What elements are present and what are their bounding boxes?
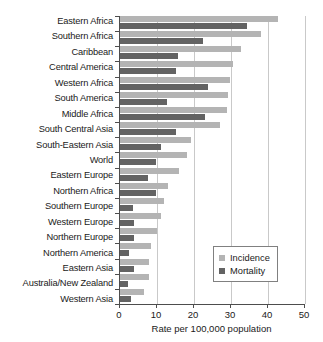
bar-mortality xyxy=(120,175,148,181)
bar-incidence xyxy=(120,122,220,128)
category-label: South Central Asia xyxy=(0,124,117,134)
bar-incidence xyxy=(120,228,157,234)
gridline xyxy=(305,16,306,304)
bar-mortality xyxy=(120,220,134,226)
bar-incidence xyxy=(120,46,241,52)
category-axis-labels: Eastern AfricaSouthern AfricaCaribbeanCe… xyxy=(0,16,117,304)
x-tick-label: 50 xyxy=(299,309,310,320)
category-label: Eastern Africa xyxy=(0,16,117,26)
category-label: South America xyxy=(0,93,117,103)
bar-incidence xyxy=(120,168,179,174)
y-tick xyxy=(115,168,119,169)
legend-swatch-incidence-icon xyxy=(219,255,225,261)
bar-mortality xyxy=(120,159,156,165)
category-label: Caribbean xyxy=(0,47,117,57)
bar-incidence xyxy=(120,107,227,113)
category-label: Western Africa xyxy=(0,78,117,88)
bar-mortality xyxy=(120,99,167,105)
category-label: Eastern Asia xyxy=(0,263,117,273)
x-tick xyxy=(267,304,268,308)
y-tick xyxy=(115,77,119,78)
y-tick xyxy=(115,137,119,138)
bar-mortality xyxy=(120,114,205,120)
category-label: Eastern Europe xyxy=(0,170,117,180)
y-tick xyxy=(115,213,119,214)
x-axis-line xyxy=(119,304,304,305)
y-tick xyxy=(115,92,119,93)
bar-row xyxy=(120,183,305,198)
x-tick-label: 40 xyxy=(262,309,273,320)
bar-incidence xyxy=(120,289,144,295)
legend-label-incidence: Incidence xyxy=(230,253,270,263)
bar-mortality xyxy=(120,53,178,59)
x-tick-label: 20 xyxy=(188,309,199,320)
chart-legend: Incidence Mortality xyxy=(213,246,278,282)
y-tick xyxy=(115,198,119,199)
y-tick xyxy=(115,304,119,305)
bar-row xyxy=(120,168,305,183)
y-tick xyxy=(115,16,119,17)
bar-mortality xyxy=(120,296,131,302)
category-label: South-Eastern Asia xyxy=(0,140,117,150)
bar-incidence xyxy=(120,183,168,189)
y-tick xyxy=(115,289,119,290)
category-label: Middle Africa xyxy=(0,109,117,119)
y-tick xyxy=(115,228,119,229)
bar-incidence xyxy=(120,16,278,22)
bar-incidence xyxy=(120,259,149,265)
category-label: Australia/New Zealand xyxy=(0,278,117,288)
bar-incidence xyxy=(120,152,187,158)
bar-row xyxy=(120,213,305,228)
y-tick xyxy=(115,122,119,123)
bar-incidence xyxy=(120,274,149,280)
bar-row xyxy=(120,122,305,137)
bar-mortality xyxy=(120,38,203,44)
x-tick-label: 30 xyxy=(225,309,236,320)
bar-row xyxy=(120,289,305,304)
category-label: Western Asia xyxy=(0,294,117,304)
bar-incidence xyxy=(120,243,151,249)
x-tick xyxy=(193,304,194,308)
category-label: Southern Africa xyxy=(0,31,117,41)
bar-mortality xyxy=(120,129,176,135)
category-label: World xyxy=(0,155,117,165)
bar-row xyxy=(120,152,305,167)
x-tick xyxy=(119,304,120,308)
x-tick xyxy=(230,304,231,308)
bar-mortality xyxy=(120,144,161,150)
legend-swatch-mortality-icon xyxy=(219,268,225,274)
bar-row xyxy=(120,228,305,243)
bar-row xyxy=(120,92,305,107)
chart-figure: Eastern AfricaSouthern AfricaCaribbeanCe… xyxy=(0,0,323,342)
x-tick-label: 0 xyxy=(116,309,121,320)
bar-row xyxy=(120,107,305,122)
y-tick xyxy=(115,274,119,275)
bar-mortality xyxy=(120,250,129,256)
x-axis-label: Rate per 100,000 population xyxy=(119,323,304,334)
bar-mortality xyxy=(120,235,134,241)
y-tick xyxy=(115,259,119,260)
bar-incidence xyxy=(120,198,164,204)
category-label: Southern Europe xyxy=(0,201,117,211)
bar-mortality xyxy=(120,205,133,211)
category-label: Western Europe xyxy=(0,217,117,227)
legend-entry-incidence: Incidence xyxy=(219,251,270,264)
y-tick xyxy=(115,152,119,153)
bar-mortality xyxy=(120,281,128,287)
bar-row xyxy=(120,46,305,61)
x-tick-label: 10 xyxy=(151,309,162,320)
y-tick xyxy=(115,243,119,244)
category-label: Northern Africa xyxy=(0,186,117,196)
y-tick xyxy=(115,31,119,32)
y-tick xyxy=(115,46,119,47)
bar-mortality xyxy=(120,190,156,196)
bar-incidence xyxy=(120,77,230,83)
bar-incidence xyxy=(120,92,228,98)
bar-row xyxy=(120,198,305,213)
x-tick xyxy=(156,304,157,308)
category-label: Northern Europe xyxy=(0,232,117,242)
bar-row xyxy=(120,16,305,31)
bar-mortality xyxy=(120,266,134,272)
bar-incidence xyxy=(120,31,261,37)
y-tick xyxy=(115,183,119,184)
